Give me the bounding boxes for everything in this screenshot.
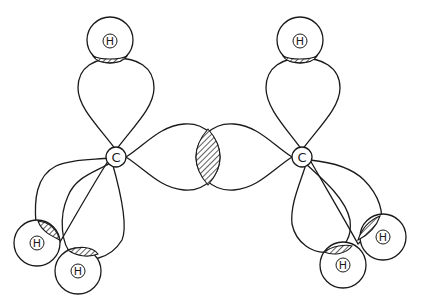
orbital-lobe-left-lower-inner — [62, 162, 124, 259]
hydrogen-label: H — [74, 265, 82, 278]
orbital-lobe-right-top — [266, 58, 340, 150]
overlap-region-c-c — [196, 129, 220, 185]
ethylene-orbital-diagram: H H H H H H C C — [0, 0, 421, 304]
hydrogen-label: H — [33, 237, 41, 250]
hydrogen-label: H — [379, 231, 387, 244]
carbon-label: C — [297, 150, 306, 165]
hydrogen-label: H — [339, 259, 347, 272]
orbital-lobe-left-top — [78, 58, 154, 150]
hydrogen-label: H — [296, 35, 304, 48]
orbital-lobe-right-lower-inner — [292, 164, 351, 252]
hydrogen-label: H — [106, 35, 114, 48]
carbon-label: C — [111, 150, 120, 165]
